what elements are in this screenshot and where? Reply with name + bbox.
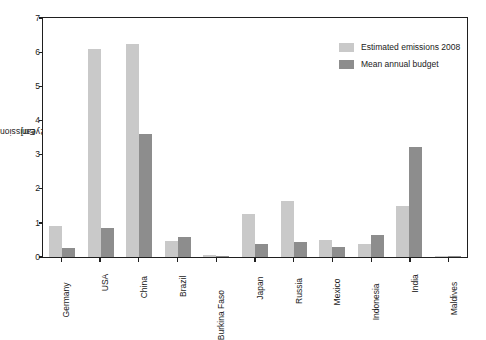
x-axis-tick-label: Mexico bbox=[333, 278, 343, 305]
legend-swatch bbox=[339, 60, 354, 69]
bar-group bbox=[159, 18, 198, 257]
bar bbox=[216, 256, 229, 257]
bar bbox=[203, 255, 216, 257]
x-axis-tick-group: Mexico bbox=[313, 258, 352, 328]
x-axis-tick-group: Japan bbox=[236, 258, 275, 328]
y-axis-title: Emissions [Gt CO2 per year] bbox=[0, 0, 22, 264]
x-axis-tick-label: Germany bbox=[61, 282, 71, 317]
bar bbox=[294, 242, 307, 257]
x-axis-tick-mark bbox=[371, 258, 372, 262]
chart-legend: Estimated emissions 2008Mean annual budg… bbox=[339, 42, 460, 69]
x-axis-tick-group: China bbox=[119, 258, 158, 328]
x-axis-tick-mark bbox=[61, 258, 62, 262]
x-axis-tick-label: Brazil bbox=[178, 276, 188, 297]
bar bbox=[396, 206, 409, 257]
bar bbox=[242, 214, 255, 257]
bar bbox=[88, 49, 101, 257]
x-axis-tick-label: USA bbox=[100, 274, 110, 291]
x-axis-tick-label: Russia bbox=[294, 278, 304, 304]
x-axis-tick-mark bbox=[293, 258, 294, 262]
x-axis-tick-label: China bbox=[139, 276, 149, 298]
bar bbox=[49, 226, 62, 257]
x-axis-tick-group: Russia bbox=[274, 258, 313, 328]
bar bbox=[126, 44, 139, 257]
bar-group bbox=[197, 18, 236, 257]
x-axis-tick-mark bbox=[332, 258, 333, 262]
bar bbox=[281, 201, 294, 257]
x-axis-tick-mark bbox=[138, 258, 139, 262]
x-axis-tick-group: Germany bbox=[42, 258, 81, 328]
x-axis-tick-label: Burkina Faso bbox=[216, 290, 226, 340]
bar bbox=[255, 244, 268, 257]
bar bbox=[165, 241, 178, 257]
bar-group bbox=[43, 18, 82, 257]
bar-group bbox=[274, 18, 313, 257]
bar bbox=[319, 240, 332, 257]
legend-item: Estimated emissions 2008 bbox=[339, 42, 460, 52]
bar bbox=[178, 237, 191, 257]
bar bbox=[101, 228, 114, 257]
x-axis-tick-group: Maldives bbox=[429, 258, 468, 328]
x-axis-tick-group: USA bbox=[81, 258, 120, 328]
x-axis-tick-label: Indonesia bbox=[371, 283, 381, 320]
bar bbox=[448, 256, 461, 257]
x-axis-tick-mark bbox=[254, 258, 255, 262]
x-axis-labels: GermanyUSAChinaBrazilBurkina FasoJapanRu… bbox=[42, 258, 468, 328]
x-axis-tick-group: Brazil bbox=[158, 258, 197, 328]
bar bbox=[332, 247, 345, 257]
bar-group bbox=[120, 18, 159, 257]
legend-item: Mean annual budget bbox=[339, 59, 460, 69]
bar bbox=[62, 248, 75, 257]
x-axis-tick-label: Japan bbox=[255, 277, 265, 300]
legend-label: Estimated emissions 2008 bbox=[361, 42, 460, 52]
x-axis-tick-group: India bbox=[391, 258, 430, 328]
x-axis-tick-group: Burkina Faso bbox=[197, 258, 236, 328]
bar-group bbox=[82, 18, 121, 257]
x-axis-tick-mark bbox=[177, 258, 178, 262]
x-axis-tick-label: Maldives bbox=[449, 282, 459, 316]
x-axis-tick-mark bbox=[216, 258, 217, 262]
bar bbox=[435, 256, 448, 257]
bar-group bbox=[236, 18, 275, 257]
x-axis-tick-group: Indonesia bbox=[352, 258, 391, 328]
x-axis-tick-mark bbox=[448, 258, 449, 262]
bar bbox=[409, 147, 422, 257]
x-axis-tick-label: India bbox=[410, 274, 420, 292]
legend-label: Mean annual budget bbox=[361, 59, 439, 69]
plot-area: 01234567 Estimated emissions 2008Mean an… bbox=[42, 17, 468, 258]
bar bbox=[139, 134, 152, 257]
bar bbox=[371, 235, 384, 257]
x-axis-tick-mark bbox=[409, 258, 410, 262]
x-axis-tick-mark bbox=[99, 258, 100, 262]
bar bbox=[358, 244, 371, 257]
legend-swatch bbox=[339, 43, 354, 52]
